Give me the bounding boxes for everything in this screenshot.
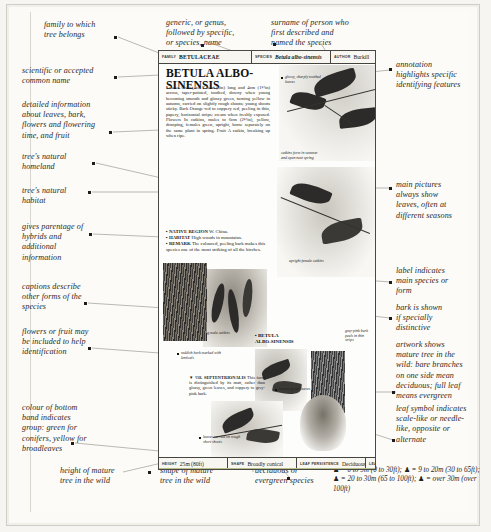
annotation-main-pictures: main pictures always show leaves, often …	[396, 180, 491, 221]
caption-upright-female-catkins: upright female catkins	[289, 259, 329, 264]
height-key: ♟ = 0 to 9m (0 to 30ft); ♟ = 9 to 20m (3…	[333, 466, 485, 506]
fact-label-remark: REMARK	[169, 241, 191, 246]
entry-facts: ▪ NATIVE REGION W. China. ▪ HABITAT High…	[166, 229, 270, 253]
caption-reddish-bark: reddish bark marked with lenticels	[181, 351, 225, 360]
family-value: BETULACEAE	[179, 54, 220, 60]
header-field-author: Author Burkill	[331, 51, 375, 63]
caption-bullet-glossy-leaves	[281, 77, 283, 79]
annotation-colour-band: colour of bottom band indicates group: g…	[22, 403, 138, 454]
annotation-bark-shown: bark is shown if specially distinctive	[396, 303, 491, 334]
fact-value-native-region: W. China.	[209, 229, 228, 234]
caption-leaves-short-shoots: leaves carried on rough short shoots	[203, 435, 247, 444]
annotation-homeland: tree's natural homeland	[22, 152, 134, 172]
annotation-bullet-homeland	[92, 162, 95, 165]
species-value: Betula albo-sinensis	[275, 54, 322, 60]
annotation-bullet-flowers-fruit	[88, 347, 91, 350]
variety-block: ▼ var. SEPTENTRIONALIS This form is dist…	[189, 375, 265, 396]
author-label: Author	[334, 55, 351, 59]
height-key-line-2: = 9 to 20m (30 to 65ft);	[412, 466, 480, 474]
annotation-label-indicates: label indicates main species or form	[396, 266, 491, 297]
caption-mature-leaves: mature green leaves	[279, 387, 313, 392]
scanned-page: family to which tree belongs	[0, 0, 491, 532]
leaf-type-label: Leaf type	[369, 462, 375, 466]
annotation-artwork: artwork shows mature tree in the wild: b…	[396, 340, 491, 401]
encyclopedia-entry-card: Family BETULACEAE Species Betula albo-si…	[158, 50, 376, 470]
annotation-bullet-family	[114, 36, 117, 39]
leaf-persistence-value: Deciduous	[342, 461, 366, 467]
author-value: Burkill	[354, 54, 370, 60]
annotation-common-name: scientific or accepted common name	[22, 66, 134, 86]
annotation-genus-species: generic, or genus, followed by specific,…	[166, 18, 276, 49]
fact-value-habitat: High woods in mountains.	[192, 235, 243, 240]
height-value: 25m (80ft)	[180, 461, 204, 467]
shape-label: Shape	[231, 462, 244, 466]
fact-label-habitat: HABITAT	[169, 235, 190, 240]
annotation-habitat: tree's natural habitat	[22, 186, 134, 206]
shape-value: Broadly conical	[247, 461, 283, 467]
annotation-bullet-habitat	[88, 191, 91, 194]
annotation-bullet-deciduous	[287, 477, 290, 480]
species-label-box: ▪ BETULAALBO-SINENSIS	[255, 333, 294, 345]
annotation-family: family to which tree belongs	[44, 20, 139, 40]
height-symbol-3: ♟	[333, 475, 339, 483]
annotation-bullet-leaf-symbol	[392, 439, 395, 442]
annotation-bullet-author	[273, 43, 276, 46]
group-colour-band	[159, 468, 375, 469]
leaf-persistence-label: Leaf persistence	[300, 462, 339, 466]
fact-label-native-region: NATIVE REGION	[169, 229, 208, 234]
height-symbol-2: ♟	[404, 466, 410, 474]
annotation-note: annotation highlights specific identifyi…	[396, 60, 491, 91]
species-label: Species	[255, 55, 272, 59]
header-field-family: Family BETULACEAE	[159, 51, 252, 63]
annotation-detailed-info: detailed information about leaves, bark,…	[22, 100, 140, 141]
entry-description: Leaves Ovate, to 7.5cm (3in) long and 4c…	[166, 85, 270, 138]
caption-bullet-mature-leaves	[275, 389, 277, 391]
family-label: Family	[162, 55, 176, 59]
caption-catkins-summer: catkins form in summer and open next spr…	[281, 151, 321, 160]
annotation-bullet-parentage	[89, 233, 92, 236]
annotation-bullet-genus	[201, 44, 204, 47]
height-symbol-4: ♟	[418, 475, 424, 483]
card-body: BETULA ALBO-SINENSIS Leaves Ovate, to 7.…	[159, 63, 375, 457]
annotation-bullet-colour-band	[71, 442, 74, 445]
annotation-bullet-label	[389, 281, 392, 284]
caption-bullet-short-shoots	[199, 437, 201, 439]
annotation-bullet-bark	[389, 317, 392, 320]
annotation-bullet-captions	[84, 302, 87, 305]
annotation-flowers-fruit: flowers or fruit may be included to help…	[22, 327, 140, 358]
height-label: Height	[162, 462, 177, 466]
photo-short-shoots	[211, 401, 283, 459]
caption-grey-pink-bark: grey-pink bark peels in thin strips	[345, 329, 373, 343]
artwork-mature-tree	[300, 395, 346, 451]
annotation-bullet-main-pictures	[389, 187, 392, 190]
annotation-bullet-artwork	[392, 391, 395, 394]
height-key-line-3: = 20 to 30m (65 to 100ft);	[341, 475, 417, 483]
photo-reddish-bark	[163, 263, 207, 341]
annotation-bullet-note	[389, 68, 392, 71]
caption-glossy-leaves: glossy, sharply toothed leaves	[285, 75, 331, 84]
annotation-height-mature: height of mature tree in the wild	[60, 466, 150, 486]
header-field-species: Species Betula albo-sinensis	[252, 51, 331, 63]
annotation-bullet-common-name	[114, 76, 117, 79]
fact-remark: ▪ REMARK The coloured, peeling bark make…	[166, 241, 270, 253]
annotation-parentage: gives parentage of hybrids and additiona…	[22, 222, 134, 263]
annotation-bullet-height	[148, 471, 151, 474]
annotation-leaf-symbol: leaf symbol indicates scale-like or need…	[396, 404, 491, 445]
caption-bullet-reddish-bark	[177, 353, 179, 355]
annotation-author: surname of person who first described an…	[271, 18, 391, 49]
annotation-bullet-detailed-info	[109, 131, 112, 134]
annotation-captions: captions describe other forms of the spe…	[22, 282, 134, 313]
